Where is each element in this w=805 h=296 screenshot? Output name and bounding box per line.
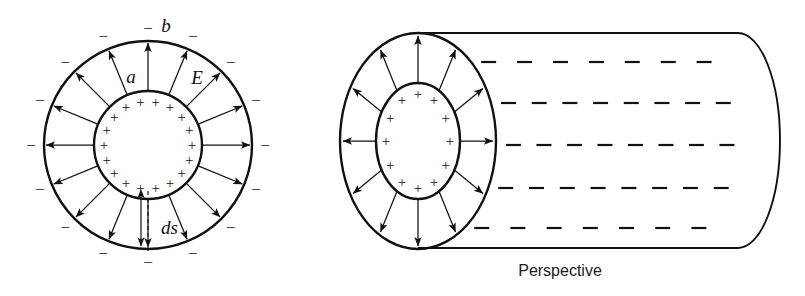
cross-section-view: ++++++++++++++++++ −−−−−−−−−−−−−−−− a b … — [26, 15, 270, 272]
field-arrow-2 — [187, 184, 220, 217]
positive-charge-2: + — [185, 152, 193, 168]
perspective-caption: Perspective — [518, 262, 602, 279]
negative-charge-0: − — [260, 136, 270, 155]
positive-charge-8: + — [110, 165, 118, 181]
label-inner-radius-a: a — [126, 66, 136, 87]
perspective-positive-charge-8: + — [386, 110, 394, 126]
perspective-field-arrow-9 — [381, 50, 398, 91]
perspective-positive-charge-5: + — [398, 174, 406, 190]
perspective-field-arrow-3 — [439, 191, 456, 232]
positive-charge-10: + — [100, 137, 108, 153]
label-surface-element-ds: ds — [161, 217, 178, 238]
perspective-field-arrow-11 — [439, 50, 456, 91]
positive-charge-17: + — [177, 109, 185, 125]
perspective-field-arrow-6 — [353, 170, 382, 194]
perspective-positive-charge-7: + — [382, 133, 390, 149]
positive-charge-7: + — [122, 175, 130, 191]
positive-charge-14: + — [136, 94, 144, 110]
perspective-positive-charge-10: + — [414, 86, 422, 102]
field-arrow-1 — [199, 166, 242, 184]
negative-charge-13: − — [188, 27, 198, 46]
field-arrow-11 — [109, 51, 127, 94]
field-arrow-6 — [76, 184, 109, 217]
positive-charge-6: + — [136, 180, 144, 196]
positive-charge-12: + — [110, 109, 118, 125]
positive-charge-1: + — [188, 137, 196, 153]
perspective-field-arrow-2 — [454, 170, 483, 194]
inner-conductor-circle — [94, 91, 202, 199]
cross-section-field-arrows — [46, 43, 250, 247]
negative-charge-14: − — [226, 53, 236, 72]
negative-charge-10: − — [60, 53, 70, 72]
perspective-field-arrow-5 — [381, 191, 398, 232]
perspective-positive-charge-3: + — [430, 174, 438, 190]
negative-charge-3: − — [188, 244, 198, 263]
positive-charge-13: + — [122, 99, 130, 115]
field-arrow-13 — [169, 51, 187, 94]
field-arrow-5 — [109, 196, 127, 239]
negative-charge-7: − — [35, 180, 45, 199]
perspective-positive-charge-9: + — [398, 92, 406, 108]
positive-charge-5: + — [151, 180, 159, 196]
perspective-view: ++++++++++++ Perspective — [340, 33, 780, 279]
positive-charge-4: + — [166, 175, 174, 191]
positive-charge-16: + — [166, 99, 174, 115]
perspective-positive-charge-0: + — [441, 110, 449, 126]
field-arrow-7 — [54, 166, 97, 184]
positive-charge-0: + — [185, 122, 193, 138]
negative-charge-8: − — [26, 136, 36, 155]
negative-charge-15: − — [251, 91, 261, 110]
negative-charge-2: − — [226, 218, 236, 237]
negative-charge-12: − — [143, 19, 153, 38]
positive-charge-15: + — [151, 94, 159, 110]
perspective-positive-charges: ++++++++++++ — [382, 86, 454, 196]
perspective-positive-charge-11: + — [430, 92, 438, 108]
label-field-E: E — [190, 67, 203, 88]
negative-charge-9: − — [35, 91, 45, 110]
field-arrow-9 — [54, 106, 97, 124]
perspective-positive-charge-2: + — [441, 157, 449, 173]
perspective-positive-charge-1: + — [446, 133, 454, 149]
negative-charge-5: − — [98, 244, 108, 263]
perspective-positive-charge-6: + — [386, 157, 394, 173]
field-arrow-10 — [76, 73, 109, 106]
negative-charge-4: − — [143, 253, 153, 272]
perspective-surface-negative-charges — [474, 62, 734, 228]
figure-canvas: ++++++++++++++++++ −−−−−−−−−−−−−−−− a b … — [0, 0, 805, 296]
perspective-field-arrow-0 — [454, 89, 483, 113]
perspective-field-arrows — [343, 36, 493, 246]
physics-figure-coaxial-cable: ++++++++++++++++++ −−−−−−−−−−−−−−−− a b … — [0, 0, 805, 296]
positive-charge-9: + — [102, 152, 110, 168]
negative-charge-6: − — [60, 218, 70, 237]
positive-charge-3: + — [177, 165, 185, 181]
negative-charge-1: − — [251, 180, 261, 199]
label-outer-radius-b: b — [161, 15, 171, 36]
inner-conductor-positive-charges: ++++++++++++++++++ — [100, 94, 196, 197]
perspective-field-arrow-8 — [353, 89, 382, 113]
negative-charge-11: − — [98, 27, 108, 46]
field-arrow-15 — [199, 106, 242, 124]
perspective-positive-charge-4: + — [414, 180, 422, 196]
